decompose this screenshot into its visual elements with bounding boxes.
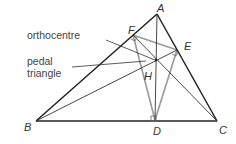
orthocentre-label: orthocentre	[27, 30, 80, 41]
right-angle-markers	[131, 37, 178, 121]
vertex-label-b: B	[24, 122, 31, 133]
vertex-label-f: F	[128, 25, 135, 36]
vertex-label-h: H	[144, 71, 152, 82]
vertex-label-e: E	[184, 41, 191, 52]
pedal-triangle-label-line1: pedal	[27, 56, 53, 67]
pedal-triangle-label-line2: triangle	[27, 68, 61, 79]
vertex-label-d: D	[153, 126, 161, 137]
vertex-label-c: C	[219, 125, 227, 136]
vertex-label-a: A	[157, 3, 164, 14]
annotation-pointers	[72, 40, 155, 67]
orthocentre-point	[155, 59, 158, 62]
